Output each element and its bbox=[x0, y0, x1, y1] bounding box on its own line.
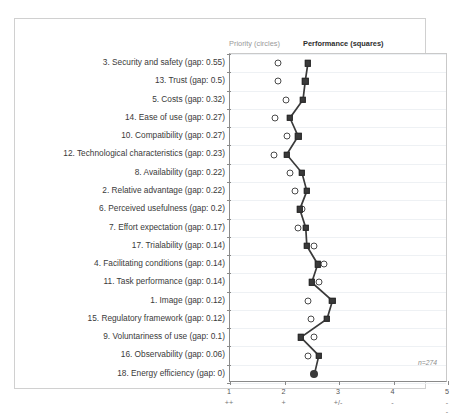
chart-frame: Priority (circles) Performance (squares)… bbox=[14, 18, 426, 389]
priority-marker bbox=[274, 60, 281, 67]
priority-marker bbox=[305, 352, 312, 359]
priority-marker bbox=[291, 188, 298, 195]
legend-item-priority: Priority (circles) bbox=[229, 39, 280, 48]
performance-marker bbox=[298, 334, 304, 340]
axis-tick-label: 4 bbox=[391, 387, 395, 396]
performance-marker bbox=[329, 298, 335, 304]
axis-tick-label: 5 bbox=[445, 387, 449, 396]
priority-marker bbox=[321, 261, 328, 268]
axis-tick-symbol: - bbox=[391, 398, 393, 407]
performance-marker bbox=[324, 316, 330, 322]
performance-marker bbox=[303, 224, 309, 230]
chart-legend: Priority (circles) Performance (squares) bbox=[229, 39, 456, 52]
performance-marker bbox=[302, 78, 308, 84]
category-label: 10. Compatibility (gap: 0.27) bbox=[121, 126, 225, 144]
category-label: 2. Relative advantage (gap: 0.22) bbox=[102, 181, 225, 199]
performance-marker bbox=[315, 261, 321, 267]
performance-marker bbox=[283, 151, 289, 157]
axis-tick bbox=[448, 381, 449, 385]
axis-tick-label: 1 bbox=[227, 387, 231, 396]
performance-marker bbox=[295, 133, 301, 139]
axis-tick-symbol: +/- bbox=[334, 398, 343, 407]
category-label: 4. Facilitating conditions (gap: 0.14) bbox=[94, 254, 225, 272]
category-label: 6. Perceived usefulness (gap: 0.2) bbox=[99, 199, 225, 217]
legend-item-performance: Performance (squares) bbox=[303, 39, 384, 48]
category-label: 5. Costs (gap: 0.32) bbox=[152, 90, 225, 108]
axis-tick-label: 2 bbox=[282, 387, 286, 396]
priority-marker bbox=[307, 316, 314, 323]
priority-marker bbox=[305, 297, 312, 304]
priority-marker bbox=[286, 169, 293, 176]
priority-marker bbox=[271, 151, 278, 158]
category-label: 15. Regulatory framework (gap: 0.12) bbox=[88, 309, 225, 327]
category-label: 13. Trust (gap: 0.5) bbox=[155, 71, 225, 89]
category-label: 8. Availability (gap: 0.22) bbox=[135, 163, 225, 181]
axis-tick-symbol: ++ bbox=[225, 398, 233, 407]
priority-marker bbox=[274, 78, 281, 85]
performance-marker bbox=[304, 243, 310, 249]
performance-line bbox=[230, 54, 448, 383]
performance-marker bbox=[310, 370, 318, 378]
performance-marker bbox=[297, 206, 303, 212]
category-label: 9. Voluntariness of use (gap: 0.1) bbox=[103, 327, 225, 345]
priority-marker bbox=[272, 114, 279, 121]
performance-marker bbox=[309, 279, 315, 285]
plot-area: n=274 bbox=[229, 53, 447, 382]
value-axis: 1++2+3+/-4-5-- bbox=[229, 382, 447, 412]
performance-marker bbox=[300, 96, 306, 102]
performance-marker bbox=[304, 188, 310, 194]
performance-marker bbox=[287, 115, 293, 121]
priority-marker bbox=[315, 279, 322, 286]
category-label: 14. Ease of use (gap: 0.27) bbox=[125, 108, 225, 126]
priority-marker bbox=[295, 224, 302, 231]
category-label: 11. Task performance (gap: 0.14) bbox=[104, 272, 225, 290]
category-label: 7. Effort expectation (gap: 0.17) bbox=[109, 218, 225, 236]
performance-marker bbox=[316, 352, 322, 358]
axis-tick-symbol: -- bbox=[446, 398, 448, 415]
category-axis-labels: 3. Security and safety (gap: 0.55)13. Tr… bbox=[33, 53, 225, 382]
category-label: 3. Security and safety (gap: 0.55) bbox=[103, 53, 225, 71]
category-label: 16. Observability (gap: 0.06) bbox=[121, 345, 225, 363]
priority-marker bbox=[311, 242, 318, 249]
axis-tick-symbol: + bbox=[281, 398, 285, 407]
category-label: 1. Image (gap: 0.12) bbox=[150, 291, 225, 309]
priority-marker bbox=[284, 133, 291, 140]
category-label: 18. Energy efficiency (gap: 0) bbox=[117, 364, 225, 382]
priority-marker bbox=[282, 96, 289, 103]
priority-marker bbox=[311, 334, 318, 341]
axis-tick-label: 3 bbox=[336, 387, 340, 396]
category-label: 12. Technological characteristics (gap: … bbox=[63, 144, 225, 162]
category-label: 17. Trialability (gap: 0.14) bbox=[132, 236, 225, 254]
performance-marker bbox=[305, 60, 311, 66]
performance-marker bbox=[299, 170, 305, 176]
